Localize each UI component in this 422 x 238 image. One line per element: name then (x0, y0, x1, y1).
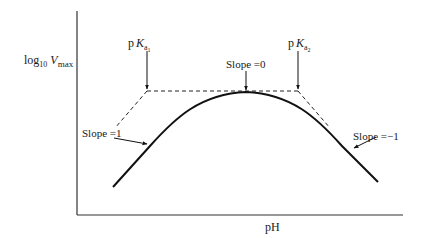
y-label-log: log (24, 53, 39, 67)
pka2-subsubscript: 2 (308, 47, 311, 53)
slope-left-label: Slope =1 (82, 127, 122, 139)
x-axis-label: pH (265, 220, 280, 234)
left-asymptote (115, 91, 147, 128)
pka2-label: pKa2 (288, 36, 311, 53)
y-axis-label: log10Vmax (24, 53, 74, 69)
slope-zero-label: Slope =0 (226, 58, 266, 70)
slope-right-label: Slope =−1 (353, 130, 399, 142)
y-label-log-base: 10 (39, 60, 47, 69)
y-label-variable-subscript: max (58, 59, 74, 69)
pka1-subsubscript: 1 (148, 47, 151, 53)
pka1-label: pKa1 (128, 36, 151, 53)
pka2-prefix: p (288, 36, 294, 50)
pka1-prefix: p (128, 36, 134, 50)
rate-curve (113, 92, 378, 187)
ph-rate-diagram: log10Vmax pH pKa1 pKa2 Slope =0 Slope =1… (0, 0, 422, 238)
